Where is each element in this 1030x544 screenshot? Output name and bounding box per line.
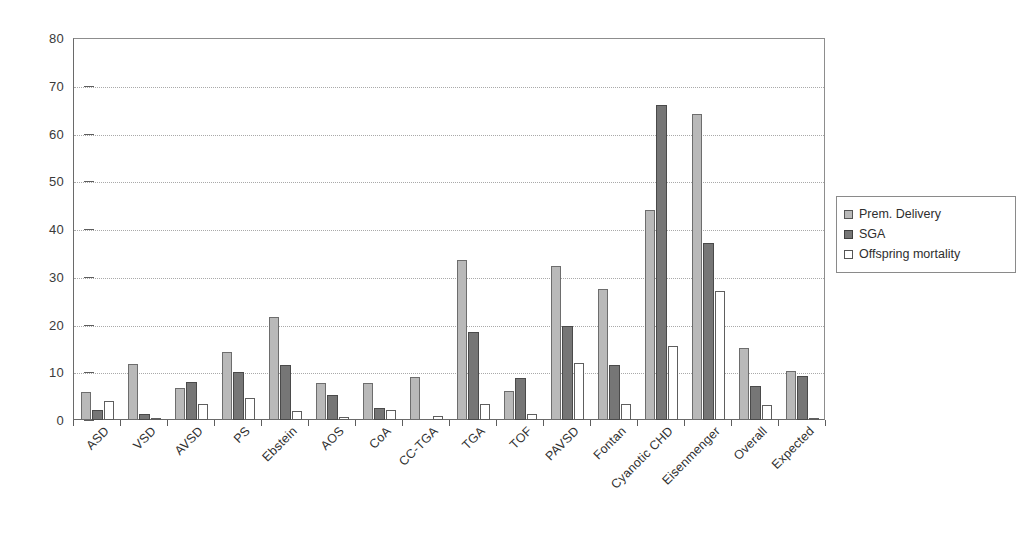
bar-group xyxy=(731,38,778,420)
bar[interactable] xyxy=(739,348,750,420)
x-axis-category-label: VSD xyxy=(131,424,160,453)
bar[interactable] xyxy=(468,332,479,420)
x-axis-category-label: Overall xyxy=(731,424,770,463)
bar[interactable] xyxy=(786,371,797,420)
x-axis-category-label: ASD xyxy=(84,424,113,453)
bar[interactable] xyxy=(316,383,327,420)
x-axis-category-label: CoA xyxy=(367,424,395,452)
bar[interactable] xyxy=(128,364,139,420)
bar-group xyxy=(449,38,496,420)
y-axis-labels: 01020304050607080 xyxy=(20,0,64,544)
bar[interactable] xyxy=(797,376,808,420)
bar-group xyxy=(120,38,167,420)
bar[interactable] xyxy=(410,377,421,420)
x-axis-category-label: Fontan xyxy=(591,424,629,462)
bar[interactable] xyxy=(562,326,573,420)
legend-label: Prem. Delivery xyxy=(859,207,941,221)
bar[interactable] xyxy=(715,291,726,420)
bar[interactable] xyxy=(457,260,468,420)
bar[interactable] xyxy=(750,386,761,420)
bar-group xyxy=(496,38,543,420)
x-axis-category-label: TGA xyxy=(460,424,488,452)
legend-swatch-prem-delivery xyxy=(844,210,853,219)
bar[interactable] xyxy=(598,289,609,420)
x-axis-labels: ASDVSDAVSDPSEbsteinAOSCoACC-TGATGATOFPAV… xyxy=(73,424,825,544)
y-axis-tick-label: 20 xyxy=(30,317,64,332)
y-axis-tick-label: 50 xyxy=(30,174,64,189)
x-axis-category-label: AOS xyxy=(318,424,347,453)
bar[interactable] xyxy=(363,383,374,420)
bar-group xyxy=(543,38,590,420)
bar-group xyxy=(684,38,731,420)
bar-group xyxy=(778,38,825,420)
x-axis-category-label: Ebstein xyxy=(260,424,300,464)
bar[interactable] xyxy=(386,410,397,421)
legend-item[interactable]: SGA xyxy=(844,224,1009,244)
bar[interactable] xyxy=(480,404,491,420)
bar[interactable] xyxy=(621,404,632,420)
bar[interactable] xyxy=(692,114,703,420)
bar[interactable] xyxy=(292,411,303,420)
bar[interactable] xyxy=(504,391,515,420)
bar[interactable] xyxy=(645,210,656,420)
bar[interactable] xyxy=(81,392,92,420)
chart-legend: Prem. Delivery SGA Offspring mortality xyxy=(836,196,1016,273)
legend-label: Offspring mortality xyxy=(859,247,960,261)
bar[interactable] xyxy=(104,401,115,420)
y-axis-tick-label: 40 xyxy=(30,222,64,237)
bar-group xyxy=(355,38,402,420)
bar-group xyxy=(308,38,355,420)
y-axis-tick-label: 30 xyxy=(30,269,64,284)
bar[interactable] xyxy=(374,408,385,420)
x-axis-category-label: CC-TGA xyxy=(396,424,441,469)
bar-group xyxy=(214,38,261,420)
bar[interactable] xyxy=(668,346,679,420)
bar[interactable] xyxy=(175,388,186,420)
x-axis-category-label: Expected xyxy=(769,424,817,472)
x-axis-tick xyxy=(825,420,826,426)
x-axis-category-label: TOF xyxy=(507,424,535,452)
bar[interactable] xyxy=(92,410,103,420)
x-axis-category-label: PS xyxy=(231,424,253,446)
bar-group xyxy=(73,38,120,420)
legend-label: SGA xyxy=(859,227,885,241)
bar-group xyxy=(402,38,449,420)
bar[interactable] xyxy=(269,317,280,420)
legend-swatch-offspring-mortality xyxy=(844,250,853,259)
bar-chart: 01020304050607080 ASDVSDAVSDPSEbsteinAOS… xyxy=(0,0,1030,544)
bar[interactable] xyxy=(574,363,585,420)
bar[interactable] xyxy=(656,105,667,420)
y-axis-tick-label: 80 xyxy=(30,31,64,46)
legend-swatch-sga xyxy=(844,230,853,239)
bar[interactable] xyxy=(198,404,209,420)
bar[interactable] xyxy=(515,378,526,420)
bar-group xyxy=(590,38,637,420)
y-axis-tick-label: 10 xyxy=(30,365,64,380)
bar-group xyxy=(637,38,684,420)
x-axis-category-label: AVSD xyxy=(172,424,206,458)
legend-item[interactable]: Offspring mortality xyxy=(844,244,1009,264)
bar-group xyxy=(167,38,214,420)
bars-layer xyxy=(73,38,825,420)
bar[interactable] xyxy=(245,398,256,420)
bar[interactable] xyxy=(327,395,338,420)
bar[interactable] xyxy=(762,405,773,420)
y-axis-tick-label: 60 xyxy=(30,126,64,141)
bar[interactable] xyxy=(186,382,197,420)
x-axis-category-label: PAVSD xyxy=(543,424,582,463)
bar[interactable] xyxy=(609,365,620,420)
bar-group xyxy=(261,38,308,420)
bar[interactable] xyxy=(222,352,233,420)
bar[interactable] xyxy=(233,372,244,420)
legend-item[interactable]: Prem. Delivery xyxy=(844,204,1009,224)
bar[interactable] xyxy=(703,243,714,420)
y-axis-tick-label: 0 xyxy=(30,413,64,428)
bar[interactable] xyxy=(551,266,562,420)
bar[interactable] xyxy=(280,365,291,420)
y-axis-tick-label: 70 xyxy=(30,78,64,93)
